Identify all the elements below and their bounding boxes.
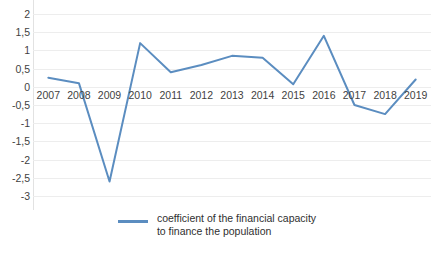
plot-area — [33, 0, 431, 210]
x-axis-tick-label: 2007 — [37, 89, 60, 101]
legend-label-line1: coefficient of the financial capacity — [157, 212, 316, 224]
x-axis-tick-label: 2017 — [343, 89, 366, 101]
y-axis-tick-label: -2 — [0, 155, 30, 165]
y-axis-tick-label: -1,5 — [0, 136, 30, 146]
x-axis-tick-label: 2019 — [404, 89, 427, 101]
y-axis-tick-label: -0,5 — [0, 100, 30, 110]
series-line-coefficient — [48, 36, 415, 182]
x-axis-tick-label: 2015 — [282, 89, 305, 101]
series-layer — [33, 0, 431, 210]
x-axis-tick-label: 2009 — [98, 89, 121, 101]
y-axis-tick-label: 1 — [0, 45, 30, 55]
legend-color-swatch-icon — [118, 220, 148, 223]
y-axis-tick-label: 2 — [0, 9, 30, 19]
legend-label: coefficient of the financial capacity to… — [157, 212, 316, 238]
y-axis-tick-label: 0,5 — [0, 64, 30, 74]
x-axis-tick-label: 2016 — [312, 89, 335, 101]
x-axis-tick-label: 2012 — [190, 89, 213, 101]
y-axis-tick-label: -3 — [0, 191, 30, 201]
y-axis-tick-label: -2,5 — [0, 173, 30, 183]
legend-item-coefficient: coefficient of the financial capacity to… — [118, 212, 316, 238]
x-axis-tick-label: 2011 — [159, 89, 182, 101]
x-axis-tick-label: 2010 — [128, 89, 151, 101]
y-axis-tick-label: 0 — [0, 82, 30, 92]
y-axis-tick-label: 1,5 — [0, 27, 30, 37]
x-axis-tick-label: 2008 — [67, 89, 90, 101]
x-axis: 2007200820092010201120122013201420152016… — [33, 89, 431, 103]
y-axis-tick-label: -1 — [0, 118, 30, 128]
plot-wrapper: 21,510,50-0,5-1-1,5-2-2,5-3 200720082009… — [0, 0, 434, 210]
x-axis-tick-label: 2018 — [373, 89, 396, 101]
x-axis-tick-label: 2013 — [220, 89, 243, 101]
y-axis: 21,510,50-0,5-1-1,5-2-2,5-3 — [0, 0, 30, 210]
legend-label-line2: to finance the population — [157, 225, 316, 238]
line-chart: 21,510,50-0,5-1-1,5-2-2,5-3 200720082009… — [0, 0, 434, 257]
x-axis-tick-label: 2014 — [251, 89, 274, 101]
chart-legend: coefficient of the financial capacity to… — [0, 212, 434, 257]
